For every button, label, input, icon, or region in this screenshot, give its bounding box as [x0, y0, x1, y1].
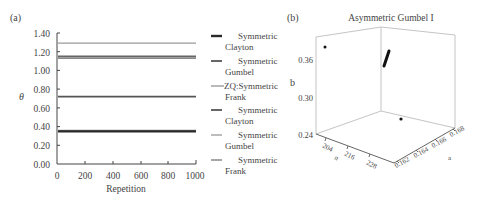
svg-text:0.164: 0.164 — [412, 145, 430, 160]
svg-text:400: 400 — [106, 171, 121, 181]
panel-b-scatter-points — [324, 46, 403, 121]
svg-text:0.166: 0.166 — [430, 135, 448, 150]
panel-a-legend: Symmetric Clayton Symmetric Gumbel ZQ:Sy… — [211, 31, 278, 176]
svg-text:0.40: 0.40 — [33, 122, 50, 132]
panel-b-right-axis-tick-labels: 0.168 0.166 0.164 0.162 — [393, 124, 466, 170]
svg-text:216: 216 — [343, 150, 356, 162]
legend-item-2-line2: Gumbel — [225, 67, 254, 77]
panel-a-x-tick-labels: 0 200 400 600 800 1000 — [55, 171, 205, 181]
svg-text:0.30: 0.30 — [298, 93, 313, 103]
svg-text:0.168: 0.168 — [448, 124, 466, 139]
svg-text:1.40: 1.40 — [33, 29, 50, 39]
panel-b-right-axis-label: a — [448, 154, 452, 162]
svg-text:0.36: 0.36 — [298, 55, 313, 65]
legend-item-1-line1: Symmetric — [238, 31, 278, 41]
svg-text:1.20: 1.20 — [33, 48, 50, 58]
svg-text:228: 228 — [365, 159, 378, 171]
panel-a-label: (a) — [10, 12, 21, 24]
panel-a-axes — [57, 33, 196, 164]
svg-text:0.80: 0.80 — [33, 85, 50, 95]
panel-b-title: Asymmetric Gumbel I — [348, 13, 433, 23]
svg-text:600: 600 — [134, 171, 149, 181]
svg-text:1.00: 1.00 — [33, 66, 50, 76]
panel-a-y-tick-labels: 1.40 1.20 1.00 0.80 0.60 0.40 0.20 0.00 — [33, 29, 50, 170]
panel-a-series — [58, 43, 196, 131]
legend-item-1-line2: Clayton — [225, 42, 254, 52]
svg-text:204: 204 — [321, 142, 334, 154]
svg-text:0.24: 0.24 — [298, 130, 314, 140]
svg-text:0.20: 0.20 — [33, 141, 50, 151]
panel-b-z-tick-labels: 0.36 0.30 0.24 — [298, 55, 314, 140]
legend-item-3-line2: Frank — [225, 92, 246, 102]
svg-text:0.60: 0.60 — [33, 104, 50, 114]
svg-text:1000: 1000 — [186, 171, 205, 181]
legend-item-6-line1: Symmetric — [238, 155, 278, 165]
legend-item-3-line1: ZQ:Symmetric — [224, 81, 278, 91]
panel-b-left-axis-label: n — [333, 154, 340, 163]
legend-item-5-line2: Gumbel — [225, 141, 254, 151]
svg-text:800: 800 — [161, 171, 176, 181]
legend-item-4-line1: Symmetric — [238, 105, 278, 115]
panel-a-x-axis-label: Repetition — [106, 184, 146, 194]
svg-text:0: 0 — [55, 171, 60, 181]
svg-text:0.00: 0.00 — [33, 160, 50, 170]
svg-text:200: 200 — [78, 171, 93, 181]
legend-item-4-line2: Clayton — [225, 116, 254, 126]
legend-item-2-line1: Symmetric — [238, 56, 278, 66]
svg-text:0.162: 0.162 — [393, 155, 411, 170]
panel-b-z-axis-label: b — [290, 77, 295, 88]
panel-a-y-axis-label: θ — [19, 91, 24, 102]
figure: (a) 1.40 1.20 1.00 0.80 0.60 0.40 0.20 — [0, 0, 484, 203]
legend-item-6-line2: Frank — [225, 166, 246, 176]
panel-b-label: (b) — [287, 12, 299, 24]
panel-b-3d-box — [316, 27, 455, 134]
legend-item-5-line1: Symmetric — [238, 130, 278, 140]
